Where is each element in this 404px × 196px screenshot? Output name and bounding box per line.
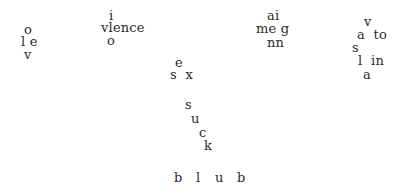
letter-fragment: s bbox=[185, 98, 192, 111]
letter-fragment: a bbox=[363, 68, 371, 81]
letter-fragment: v bbox=[24, 48, 32, 61]
letter-fragment: k bbox=[204, 139, 212, 152]
letter-fragment: b bbox=[174, 171, 183, 184]
letter-fragment: b bbox=[237, 171, 246, 184]
letter-fragment: o bbox=[107, 34, 115, 47]
scattered-letter-poem: ol evivlenceoaime gnnva tosl inaes xsuck… bbox=[0, 0, 404, 196]
letter-fragment: u bbox=[215, 171, 224, 184]
letter-fragment: a to bbox=[357, 28, 387, 41]
letter-fragment: u bbox=[191, 112, 200, 125]
letter-fragment: me g bbox=[256, 22, 289, 35]
letter-fragment: s x bbox=[170, 68, 193, 81]
letter-fragment: l in bbox=[358, 54, 384, 67]
letter-fragment: nn bbox=[267, 36, 284, 49]
letter-fragment: l bbox=[196, 171, 200, 184]
